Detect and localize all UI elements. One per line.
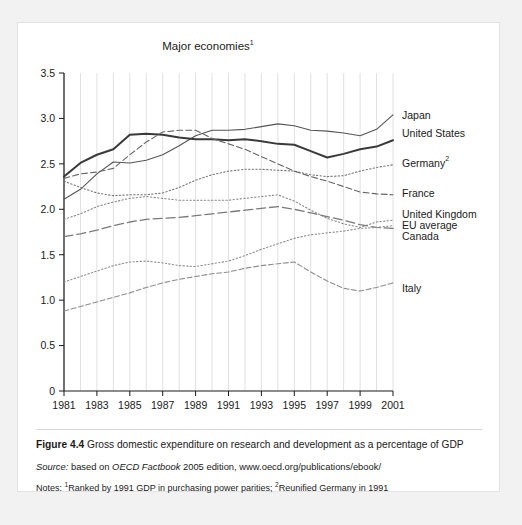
source-text-b: 2005 edition, www.oecd.org/publications/…	[180, 461, 381, 472]
caption-divider	[36, 429, 482, 430]
x-axis-tick-label: 1997	[316, 399, 340, 411]
x-axis-tick-label: 1989	[184, 399, 208, 411]
x-axis-tick-label: 1985	[118, 399, 142, 411]
figure-caption: Figure 4.4 Gross domestic expenditure on…	[36, 438, 486, 452]
series-label-italy: Italy	[402, 282, 422, 294]
series-label-germany: Germany2	[402, 154, 449, 169]
notes-label: Notes:	[36, 483, 65, 493]
figure-notes: Notes: 1Ranked by 1991 GDP in purchasing…	[36, 481, 486, 494]
y-axis-tick-label: 2.0	[40, 203, 55, 215]
y-axis-tick-label: 3.5	[40, 67, 55, 79]
series-label-france: France	[402, 187, 435, 199]
note-text-1: Ranked by 1991 GDP in purchasing power p…	[68, 483, 275, 493]
x-axis-tick-label: 1983	[85, 399, 109, 411]
line-chart: 00.51.01.52.02.53.03.5198119831985198719…	[18, 23, 501, 423]
series-label-united-states: United States	[402, 127, 465, 139]
x-axis-tick-label: 1991	[217, 399, 241, 411]
figure-number: Figure 4.4	[36, 439, 84, 450]
series-label-japan: Japan	[402, 109, 431, 121]
x-axis-tick-label: 2001	[381, 399, 405, 411]
source-label: Source:	[36, 461, 68, 472]
series-label-canada: Canada	[402, 230, 439, 242]
y-axis-tick-label: 3.0	[40, 112, 55, 124]
y-axis-tick-label: 0.5	[40, 339, 55, 351]
x-axis-tick-label: 1987	[151, 399, 175, 411]
figure-source: Source: based on OECD Factbook 2005 edit…	[36, 461, 486, 474]
figure-caption-block: Figure 4.4 Gross domestic expenditure on…	[36, 429, 486, 495]
note-text-2: Reunified Germany in 1991	[279, 483, 389, 493]
x-axis-tick-label: 1993	[250, 399, 274, 411]
x-axis-tick-label: 1999	[348, 399, 372, 411]
source-publication: OECD Factbook	[112, 461, 180, 472]
source-text-a: based on	[68, 461, 112, 472]
x-axis-tick-label: 1981	[52, 399, 76, 411]
y-axis-tick-label: 2.5	[40, 158, 55, 170]
y-axis-tick-label: 1.0	[40, 294, 55, 306]
x-axis-tick-label: 1995	[283, 399, 307, 411]
y-axis-tick-label: 1.5	[40, 249, 55, 261]
chart-plot-area: 00.51.01.52.02.53.03.5198119831985198719…	[18, 23, 501, 423]
figure-caption-text: Gross domestic expenditure on research a…	[84, 439, 463, 450]
y-axis-tick-label: 0	[49, 385, 55, 397]
figure-card: Major economies1 00.51.01.52.02.53.03.51…	[17, 22, 500, 492]
